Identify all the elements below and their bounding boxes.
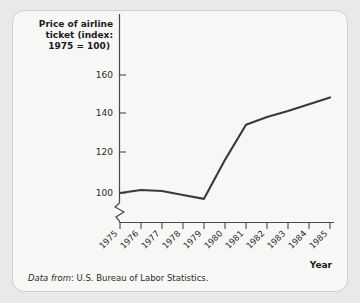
x-tick-label-1978: 1978 <box>160 228 182 250</box>
x-tick-label-1977: 1977 <box>139 228 161 250</box>
figure-page: Price of airline ticket (index: 1975 = 1… <box>0 0 360 303</box>
y-tick-label-140: 140 <box>96 108 113 118</box>
source-note-text: : U.S. Bureau of Labor Statistics. <box>71 273 209 283</box>
x-tick-label-1982: 1982 <box>244 228 266 250</box>
chart-title-line-1: Price of airline <box>39 19 113 29</box>
x-tick-label-1980: 1980 <box>202 228 224 250</box>
y-tick-label-160: 160 <box>96 70 113 80</box>
chart-title-line-2: ticket (index: <box>45 30 113 40</box>
chart-title-line-3: 1975 = 100) <box>48 41 110 51</box>
x-tick-label-1984: 1984 <box>286 228 308 250</box>
x-tick-label-1979: 1979 <box>181 228 203 250</box>
y-axis-break-icon <box>115 203 124 221</box>
x-axis-label: Year <box>309 260 333 270</box>
x-tick-label-1981: 1981 <box>223 228 245 250</box>
y-tick-label-120: 120 <box>96 147 113 157</box>
x-tick-label-1983: 1983 <box>265 228 287 250</box>
x-tick-label-1976: 1976 <box>118 228 140 250</box>
data-series-line <box>120 97 330 198</box>
x-tick-label-1975: 1975 <box>97 228 119 250</box>
x-tick-label-1985: 1985 <box>307 228 329 250</box>
chart-area: Price of airline ticket (index: 1975 = 1… <box>0 0 360 303</box>
source-note: Data from: U.S. Bureau of Labor Statisti… <box>28 273 209 283</box>
source-note-prefix: Data from <box>28 273 71 283</box>
y-tick-label-100: 100 <box>96 188 113 198</box>
